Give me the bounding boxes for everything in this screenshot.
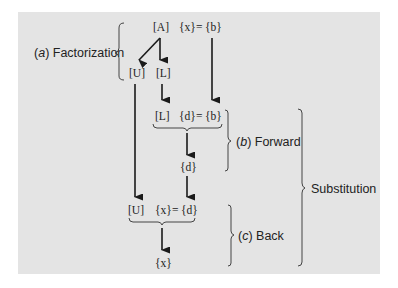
factorization-label: (a) Factorization [34,46,124,60]
matrix-U-1: [U] [129,67,145,79]
forward-label: (b) Forward [236,135,301,149]
vector-x-top: {x} [179,21,196,33]
forward-bracket [225,110,231,171]
equals-row3: = [172,204,179,216]
vector-x-row3: {x} [155,204,172,216]
substitution-label: Substitution [311,182,376,196]
vector-d-row3: {d} [181,204,198,216]
forward-underbrace [153,124,222,131]
back-underbrace [129,218,195,225]
matrix-L-1: [L] [156,67,171,79]
vector-b-row2: {b} [205,110,222,122]
arrow-A-to-U [139,38,160,60]
vector-d: {d} [180,161,197,173]
substitution-bracket [298,109,305,266]
vector-d-row2: {d} [179,110,196,122]
matrix-L-2: [L] [155,110,170,122]
vector-b-top: {b} [205,21,222,33]
matrix-U-2: [U] [128,204,144,216]
back-bracket [228,205,234,266]
matrix-A: [A] [153,21,169,33]
equals-top: = [196,21,203,33]
equals-row2: = [196,110,203,122]
lu-decomposition-diagram: (a) Factorization [A] {x} = {b} [U] [L] … [0,0,398,288]
vector-x-result: {x} [155,257,172,269]
back-label: (c) Back [238,229,285,243]
